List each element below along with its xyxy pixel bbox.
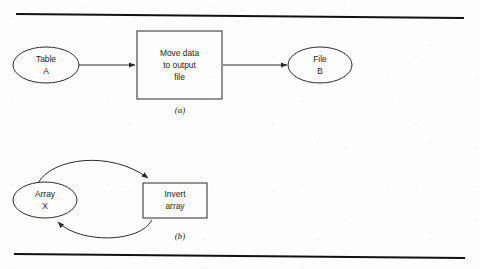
invert-array-label-line1: Invert bbox=[165, 189, 187, 199]
move-data-label-line3: file bbox=[174, 72, 185, 82]
invert-array-label-line2: array bbox=[165, 201, 185, 211]
figure-a-caption: (a) bbox=[175, 105, 186, 115]
move-data-label-line2: to output bbox=[163, 60, 196, 70]
top-rule bbox=[16, 14, 464, 18]
node-table-a: Table A bbox=[13, 47, 79, 83]
array-x-ellipse bbox=[13, 182, 77, 218]
bottom-rule bbox=[14, 254, 465, 258]
node-move-data-process: Move data to output file bbox=[137, 31, 222, 99]
node-array-x: Array X bbox=[13, 182, 77, 218]
array-x-label-line1: Array bbox=[35, 189, 56, 199]
figure-b-caption: (b) bbox=[175, 231, 186, 241]
move-data-label-line1: Move data bbox=[160, 48, 199, 58]
arrow-process-to-array-x bbox=[58, 220, 152, 238]
figure-b: Array X Invert array (b) bbox=[13, 160, 207, 241]
diagram-page: Table A Move data to output file File B bbox=[0, 0, 480, 269]
file-b-label-line2: B bbox=[317, 66, 323, 76]
file-b-label-line1: File bbox=[313, 54, 327, 64]
node-file-b: File B bbox=[288, 47, 352, 83]
table-a-label-line1: Table bbox=[36, 54, 56, 64]
arrow-array-x-to-process bbox=[38, 160, 148, 183]
table-a-label-line2: A bbox=[43, 66, 49, 76]
diagram-canvas: Table A Move data to output file File B bbox=[0, 0, 480, 269]
file-b-ellipse bbox=[288, 47, 352, 83]
array-x-label-line2: X bbox=[42, 201, 48, 211]
figure-a: Table A Move data to output file File B bbox=[13, 31, 352, 115]
table-a-ellipse bbox=[13, 47, 79, 83]
node-invert-array-process: Invert array bbox=[143, 183, 207, 218]
